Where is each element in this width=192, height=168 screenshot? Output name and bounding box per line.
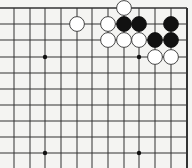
black-stone [117,17,132,32]
black-stone [164,17,179,32]
white-stone [148,50,163,65]
star-point [137,55,141,59]
white-stone [117,1,132,16]
board-grid [0,8,187,168]
star-point [43,151,47,155]
white-stone [70,17,85,32]
black-stone [164,33,179,48]
white-stone [101,33,116,48]
white-stone [101,17,116,32]
star-point [137,151,141,155]
go-board [0,0,192,168]
black-stone [148,33,163,48]
white-stone [132,33,147,48]
star-point [43,55,47,59]
black-stone [132,17,147,32]
white-stone [164,50,179,65]
white-stone [117,33,132,48]
